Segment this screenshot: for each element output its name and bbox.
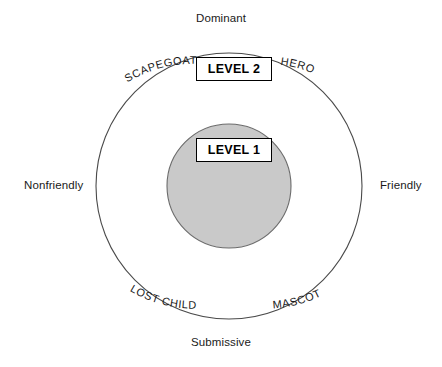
- level-1-box: LEVEL 1: [196, 138, 272, 162]
- role-label-scapegoat: SCAPEGOAT: [122, 54, 197, 84]
- role-label-mascot: MASCOT: [272, 286, 322, 310]
- axis-label-friendly: Friendly: [380, 179, 422, 192]
- circumplex-diagram: SCAPEGOAT HERO LOST CHILD MASCOT Dominan…: [0, 0, 442, 367]
- role-label-lost-child: LOST CHILD: [128, 282, 197, 311]
- axis-label-dominant: Dominant: [0, 12, 442, 25]
- axis-label-submissive: Submissive: [0, 336, 442, 349]
- axis-label-nonfriendly: Nonfriendly: [24, 179, 83, 192]
- level-2-box: LEVEL 2: [196, 57, 272, 81]
